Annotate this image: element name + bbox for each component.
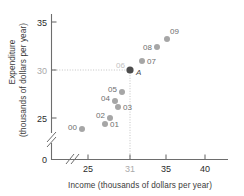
- data-point-01: [102, 121, 108, 127]
- x-axis-title: Income (thousands of dollars per year): [68, 181, 212, 190]
- x-tick-label-40: 40: [200, 164, 210, 174]
- data-points: [79, 36, 170, 132]
- guide-lines: [52, 70, 131, 159]
- data-point-label-09: 09: [170, 27, 179, 36]
- y-axis-title-line1: Expenditure: [8, 39, 17, 84]
- y-tick-label-30: 30: [37, 66, 47, 76]
- data-point-label-07: 07: [147, 57, 156, 66]
- data-point-label-03: 03: [123, 103, 132, 112]
- x-tick-label-25: 25: [83, 164, 93, 174]
- data-point-label-08: 08: [143, 43, 152, 52]
- y-axis: [47, 14, 57, 160]
- data-point-labels: 00 01 02 03 04 05 06 07 08 09 A: [68, 27, 179, 132]
- y-tick-label-0: 0: [42, 155, 47, 165]
- scatter-plot: 35 30 25 0 25 31 35 40 00 01 02 03 04 05…: [0, 0, 244, 196]
- data-point-09: [164, 36, 170, 42]
- data-point-03: [115, 104, 121, 110]
- y-axis-break-mark-1: [47, 132, 56, 142]
- data-point-06-A: [126, 66, 133, 73]
- y-axis-title-line2: (thousands of dollars per year): [19, 23, 28, 137]
- data-point-label-05: 05: [108, 85, 117, 94]
- data-point-00: [79, 126, 85, 132]
- x-tick-label-31: 31: [125, 164, 135, 174]
- data-point-05: [119, 89, 125, 95]
- y-tick-label-25: 25: [37, 114, 47, 124]
- data-point-label-06: 06: [116, 61, 125, 70]
- data-point-label-01: 01: [110, 120, 119, 129]
- x-tick-label-35: 35: [161, 164, 171, 174]
- data-point-04: [112, 98, 118, 104]
- data-point-label-04: 04: [101, 94, 110, 103]
- data-point-08: [154, 44, 160, 50]
- data-point-label-02: 02: [96, 111, 105, 120]
- marked-point-label-A: A: [135, 68, 141, 77]
- data-point-label-00: 00: [68, 123, 77, 132]
- x-axis: [52, 154, 229, 164]
- y-tick-label-35: 35: [37, 18, 47, 28]
- data-point-07: [139, 58, 145, 64]
